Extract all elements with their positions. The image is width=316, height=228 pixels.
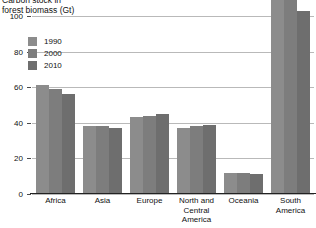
legend-item: 2000 [28, 49, 62, 58]
bar [109, 128, 122, 194]
y-axis-tick-mark [27, 16, 31, 17]
bar-group [271, 16, 310, 194]
legend-label: 2010 [44, 61, 62, 70]
bar [177, 128, 190, 194]
y-axis-tick-label: 100 [10, 12, 23, 21]
y-axis-tick-mark [27, 194, 31, 195]
bar-group [177, 16, 216, 194]
bar-chart: Carbon stock in forest biomass (Gt) 0204… [0, 0, 316, 228]
plot-area: 020406080100 [32, 16, 314, 194]
bar-group [224, 16, 263, 194]
y-axis-tick-mark [27, 123, 31, 124]
category-axis: AfricaAsiaEuropeNorth and Central Americ… [32, 196, 314, 226]
category-label: South America [267, 196, 314, 226]
bar [49, 89, 62, 194]
category-label: Asia [79, 196, 126, 226]
legend-item: 1990 [28, 37, 62, 46]
bar [297, 11, 310, 194]
chart-legend: 199020002010 [28, 37, 62, 70]
y-axis-tick-mark [27, 158, 31, 159]
legend-swatch [28, 61, 37, 70]
bar [224, 173, 237, 194]
bar-group [83, 16, 122, 194]
bar [271, 0, 284, 194]
y-axis-tick-mark [27, 87, 31, 88]
legend-item: 2010 [28, 61, 62, 70]
y-axis-tick-label: 80 [14, 47, 23, 56]
legend-swatch [28, 49, 37, 58]
category-label: Oceania [220, 196, 267, 226]
legend-swatch [28, 37, 37, 46]
bars-layer [32, 16, 314, 194]
y-axis-tick-label: 40 [14, 118, 23, 127]
bar [156, 114, 169, 194]
bar [96, 126, 109, 194]
bar [284, 0, 297, 194]
gridline [32, 194, 314, 195]
bar [130, 117, 143, 194]
y-axis-tick-label: 0 [19, 190, 23, 199]
bar [250, 174, 263, 194]
bar [190, 126, 203, 194]
y-axis-tick-label: 20 [14, 154, 23, 163]
category-label: North and Central America [173, 196, 220, 226]
x-axis-line [30, 193, 316, 195]
legend-label: 2000 [44, 49, 62, 58]
bar [203, 125, 216, 194]
bar [143, 116, 156, 194]
bar [36, 85, 49, 194]
bar [237, 173, 250, 194]
bar [62, 94, 75, 194]
bar [83, 126, 96, 194]
y-axis-tick-label: 60 [14, 83, 23, 92]
legend-label: 1990 [44, 37, 62, 46]
category-label: Africa [32, 196, 79, 226]
bar-group [130, 16, 169, 194]
category-label: Europe [126, 196, 173, 226]
